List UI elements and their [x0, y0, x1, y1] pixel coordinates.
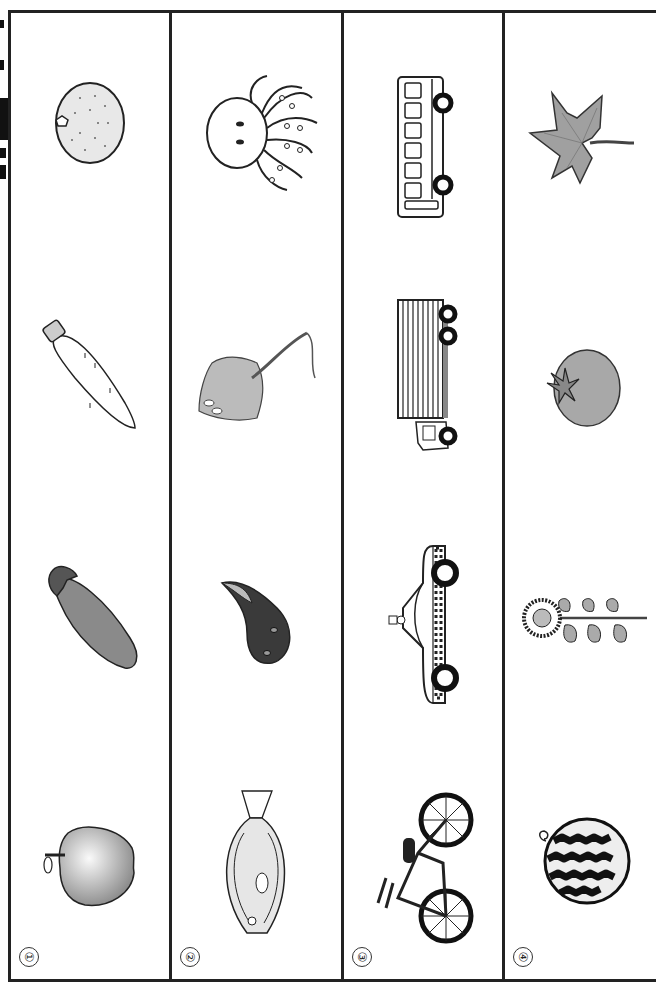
watermelon-icon[interactable] [505, 803, 656, 913]
flounder-icon[interactable] [172, 773, 341, 953]
octopus-icon[interactable] [172, 63, 341, 203]
sunflower-icon[interactable] [505, 573, 656, 663]
daikon-icon[interactable] [11, 303, 169, 443]
title-glyph-part [0, 60, 4, 70]
column-number-2: ② [180, 947, 200, 967]
tadpole-icon[interactable] [172, 553, 341, 683]
tomato-icon[interactable] [505, 333, 656, 443]
maple-leaf-icon[interactable] [505, 73, 656, 213]
column-number-3: ③ [352, 947, 372, 967]
orange-icon[interactable] [11, 63, 169, 183]
truck-icon[interactable] [344, 293, 502, 463]
column-number-4: ④ [513, 947, 533, 967]
worksheet-frame: ① [8, 10, 656, 982]
title-glyph-part [0, 165, 6, 179]
title-glyph-part [0, 20, 4, 28]
column-number-1: ① [19, 947, 39, 967]
title-glyph-part [0, 98, 8, 140]
taxi-icon[interactable] [344, 533, 502, 713]
column-1: ① [11, 13, 172, 979]
bicycle-icon[interactable] [344, 783, 502, 953]
apple-icon[interactable] [11, 803, 169, 923]
column-2: ② [172, 13, 344, 979]
column-3: ③ [344, 13, 505, 979]
column-4: ④ [505, 13, 656, 979]
stingray-icon[interactable] [172, 313, 341, 443]
bus-icon[interactable] [344, 63, 502, 233]
eggplant-icon[interactable] [11, 553, 169, 683]
title-glyph-part [0, 148, 6, 158]
